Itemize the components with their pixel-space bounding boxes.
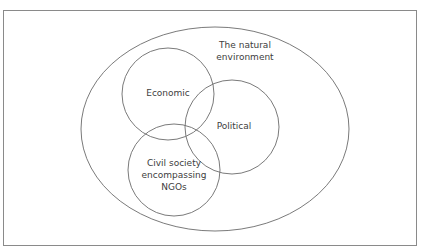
natural-environment-label-line-1: The natural xyxy=(218,40,271,50)
natural-environment-ellipse xyxy=(81,27,349,231)
natural-environment-label-line-2: environment xyxy=(216,52,274,62)
political-label: Political xyxy=(217,121,252,131)
civil-society-label-line-2: encompassing xyxy=(142,170,207,180)
civil-society-label-line-3: NGOs xyxy=(161,182,187,192)
civil-society-label-line-1: Civil society xyxy=(147,158,202,168)
economic-label: Economic xyxy=(146,88,190,98)
